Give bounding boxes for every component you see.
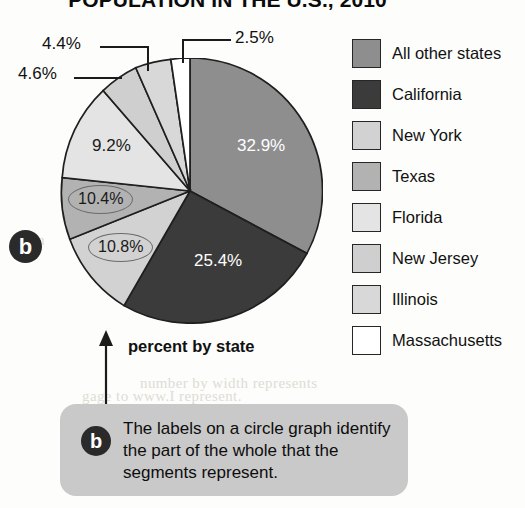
- legend-item-massachusetts[interactable]: Massachusetts: [352, 320, 524, 361]
- legend-item-new-jersey[interactable]: New Jersey: [352, 238, 524, 279]
- legend-item-illinois[interactable]: Illinois: [352, 279, 524, 320]
- legend-swatch-new-york: [352, 121, 381, 150]
- pie-value-label-illinois: 4.4%: [42, 34, 81, 54]
- legend-label-illinois: Illinois: [392, 290, 438, 309]
- legend-swatch-florida: [352, 203, 381, 232]
- leader-line-massachusetts-horizontal: [183, 39, 231, 41]
- pie-value-label-texas-circled: 10.4%: [68, 185, 133, 214]
- chart-legend: All other states California New York Tex…: [352, 33, 524, 361]
- page-title: POPULATION IN THE U.S., 2010: [0, 0, 455, 12]
- callout-box: b The labels on a circle graph identify …: [60, 404, 408, 496]
- leader-line-new-jersey-horizontal: [74, 77, 122, 79]
- leader-line-massachusetts-vertical: [182, 39, 184, 63]
- bleed-text: number by width represents: [140, 375, 317, 392]
- legend-item-new-york[interactable]: New York: [352, 115, 524, 156]
- leader-line-illinois-vertical: [147, 46, 149, 71]
- legend-swatch-new-jersey: [352, 244, 381, 273]
- legend-label-massachusetts: Massachusetts: [392, 331, 502, 350]
- pie-value-label-new-jersey: 4.6%: [18, 64, 57, 84]
- pie-value-label-new-york-circled: 10.8%: [88, 233, 153, 262]
- leader-line-illinois-horizontal: [100, 46, 148, 48]
- legend-label-new-york: New York: [392, 126, 462, 145]
- legend-label-new-jersey: New Jersey: [392, 249, 478, 268]
- callout-text: The labels on a circle graph identify th…: [123, 418, 401, 484]
- callout-marker-b-badge: b: [81, 426, 111, 456]
- legend-swatch-massachusetts: [352, 326, 381, 355]
- pie-value-label-all-other-states: 32.9%: [237, 136, 285, 156]
- legend-swatch-california: [352, 80, 381, 109]
- legend-swatch-texas: [352, 162, 381, 191]
- legend-label-california: California: [392, 85, 462, 104]
- legend-swatch-illinois: [352, 285, 381, 314]
- legend-item-florida[interactable]: Florida: [352, 197, 524, 238]
- legend-item-all-other-states[interactable]: All other states: [352, 33, 524, 74]
- axis-caption: percent by state: [128, 337, 255, 356]
- callout-arrow-icon: [98, 330, 114, 410]
- pie-value-label-florida: 9.2%: [92, 136, 131, 156]
- legend-label-florida: Florida: [392, 208, 442, 227]
- legend-item-texas[interactable]: Texas: [352, 156, 524, 197]
- pie-value-label-california: 25.4%: [194, 251, 242, 271]
- pie-value-label-massachusetts: 2.5%: [235, 28, 274, 48]
- legend-swatch-all-other-states: [352, 39, 381, 68]
- legend-label-all-other-states: All other states: [392, 44, 501, 63]
- legend-label-texas: Texas: [392, 167, 435, 186]
- legend-item-california[interactable]: California: [352, 74, 524, 115]
- callout-marker-b-pie: b: [9, 230, 42, 263]
